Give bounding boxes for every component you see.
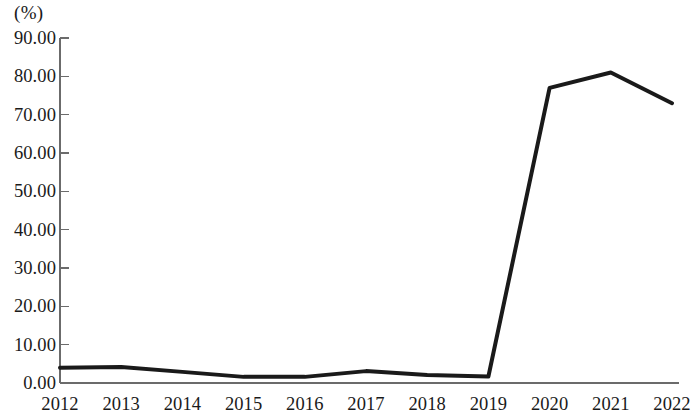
x-axis-tick-label: 2016 — [286, 392, 323, 416]
x-axis-tick-label: 2019 — [470, 392, 507, 416]
y-axis-tick-label: 30.00 — [0, 259, 56, 278]
x-axis-tick-label: 2021 — [592, 392, 629, 416]
y-axis-tick-label: 10.00 — [0, 335, 56, 354]
y-axis-tick-label: 0.00 — [0, 374, 56, 393]
y-axis-tick-labels: 90.0080.0070.0060.0050.0040.0030.0020.00… — [0, 0, 56, 419]
y-axis-tick-label: 50.00 — [0, 182, 56, 201]
y-axis-tick-label: 20.00 — [0, 297, 56, 316]
x-axis-tick-label: 2012 — [41, 392, 78, 416]
y-axis-tick-label: 90.00 — [0, 29, 56, 48]
x-axis-tick-label: 2022 — [653, 392, 690, 416]
y-axis-tick-label: 40.00 — [0, 220, 56, 239]
x-axis-tick-label: 2017 — [347, 392, 384, 416]
y-axis-tick-label: 80.00 — [0, 67, 56, 86]
x-axis-tick-label: 2014 — [164, 392, 201, 416]
y-axis-tick-label: 70.00 — [0, 105, 56, 124]
x-axis-tick-label: 2020 — [531, 392, 568, 416]
y-axis-tick-label: 60.00 — [0, 144, 56, 163]
x-axis-tick-label: 2018 — [408, 392, 445, 416]
x-axis-tick-label: 2013 — [102, 392, 139, 416]
x-axis-tick-label: 2015 — [225, 392, 262, 416]
x-axis-tick-labels: 2012201320142015201620172018201920202021… — [0, 392, 679, 419]
